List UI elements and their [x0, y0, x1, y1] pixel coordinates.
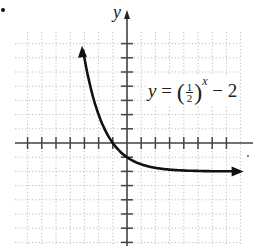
equation-equals: =: [156, 80, 176, 101]
graph-figure: y y = (12)x − 2: [0, 0, 253, 246]
curve-arrowheads: [78, 46, 244, 177]
function-equation: y = (12)x − 2: [146, 74, 239, 106]
fraction-one-half: 12: [186, 82, 194, 103]
x-axis-label-fragment: [247, 155, 249, 157]
fraction-denominator: 2: [186, 93, 194, 103]
equation-tail: − 2: [207, 80, 237, 101]
bullet-dot: [1, 8, 5, 12]
axes: [15, 10, 253, 246]
right-paren: ): [194, 79, 202, 105]
exponential-curve: [83, 50, 239, 172]
left-paren: (: [177, 79, 185, 105]
function-plot: [0, 0, 253, 246]
y-axis-label: y: [113, 2, 121, 23]
